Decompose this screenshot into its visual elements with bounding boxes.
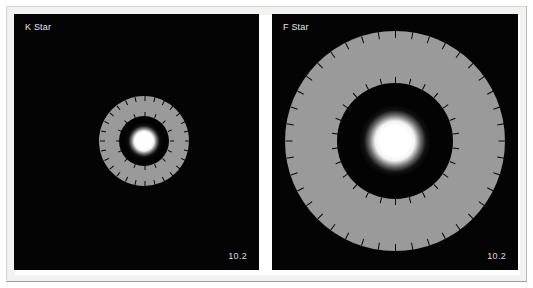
panel-corner-value-f-star: 10.2 — [487, 252, 506, 261]
panel-corner-value-k-star: 10.2 — [228, 252, 247, 261]
panel-f-star: F Star 10.2 — [272, 14, 518, 270]
panel-label-k-star: K Star — [25, 23, 51, 32]
figure-root: K Star 10.2 F Star 10.2 — [0, 0, 533, 288]
panel-label-f-star: F Star — [283, 23, 309, 32]
central-star — [126, 123, 162, 159]
panel-k-star: K Star 10.2 — [14, 14, 259, 270]
